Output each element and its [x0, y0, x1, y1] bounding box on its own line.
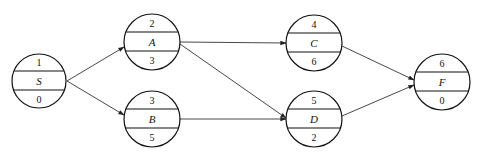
node-F-label: F — [438, 76, 446, 88]
node-B-label: B — [149, 113, 156, 125]
edges — [67, 42, 414, 119]
network-diagram: 1 S 0 2 A 3 3 B 5 4 C 6 — [0, 0, 480, 158]
node-S-bottom-value: 0 — [37, 94, 42, 105]
edge-C-F — [342, 46, 414, 80]
node-S-top-value: 1 — [37, 57, 42, 68]
node-B: 3 B 5 — [110, 91, 190, 147]
node-C-bottom-value: 6 — [312, 56, 317, 67]
node-D-top-value: 5 — [312, 95, 317, 106]
node-F-top-value: 6 — [440, 58, 445, 69]
edge-A-D — [180, 44, 286, 118]
node-F: 6 F 0 — [400, 54, 480, 110]
node-D-bottom-value: 2 — [312, 132, 317, 143]
edge-S-B — [67, 81, 124, 115]
node-A-bottom-value: 3 — [150, 55, 155, 66]
node-C-label: C — [310, 37, 318, 49]
edge-A-C — [180, 42, 286, 43]
node-A-top-value: 2 — [150, 18, 155, 29]
node-D-label: D — [309, 113, 318, 125]
node-S-label: S — [36, 75, 42, 87]
node-A: 2 A 3 — [110, 14, 190, 70]
node-B-top-value: 3 — [150, 95, 155, 106]
edge-S-A — [67, 47, 124, 81]
node-S: 1 S 0 — [0, 54, 80, 108]
node-C-top-value: 4 — [312, 19, 317, 30]
node-A-label: A — [148, 36, 156, 48]
node-F-bottom-value: 0 — [440, 95, 445, 106]
node-B-bottom-value: 5 — [150, 132, 155, 143]
edge-D-F — [342, 85, 414, 116]
